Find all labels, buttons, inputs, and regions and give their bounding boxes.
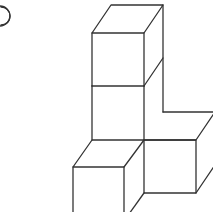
top-cube	[92, 5, 163, 112]
label-circle-arc	[0, 6, 10, 26]
cube-diagram	[0, 0, 213, 212]
right-cube	[144, 112, 213, 193]
front-left-cube	[73, 140, 144, 212]
middle-cube	[92, 86, 144, 140]
circled-label-icon	[1, 7, 10, 25]
